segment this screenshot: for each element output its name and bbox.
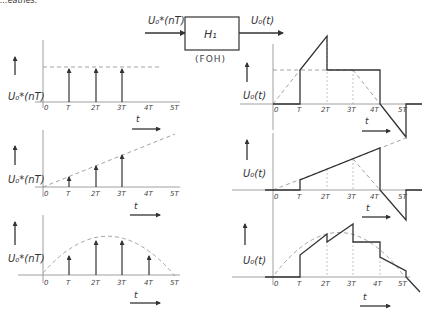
svg-text:U₀*(nT): U₀*(nT): [8, 253, 45, 264]
svg-text:3T: 3T: [347, 193, 356, 201]
svg-text:3T: 3T: [117, 104, 126, 112]
foh-output-curve: [265, 224, 420, 292]
svg-text:0: 0: [44, 104, 49, 112]
svg-text:T: T: [297, 193, 302, 201]
svg-text:0: 0: [274, 106, 279, 114]
svg-text:t: t: [366, 203, 370, 213]
svg-text:T: T: [66, 190, 71, 198]
right-plot-sine: U₀(t) 0 T 2T 3T 4T 5T t: [232, 215, 420, 306]
foh-diagram: ...eathes. U₀*(nT) U₀(t) H₁ (FOH) U₀*(nT…: [0, 0, 431, 314]
svg-text:T: T: [297, 106, 302, 114]
svg-text:2T: 2T: [91, 190, 100, 198]
svg-text:U₀*(nT): U₀*(nT): [8, 174, 45, 185]
svg-text:2T: 2T: [91, 104, 100, 112]
svg-text:2T: 2T: [91, 279, 100, 287]
svg-text:3T: 3T: [117, 190, 126, 198]
svg-text:5T: 5T: [170, 190, 179, 198]
svg-text:3T: 3T: [347, 280, 356, 288]
svg-text:4T: 4T: [144, 279, 153, 287]
right-plot-constant: U₀(t) 0 T 2T 3T 4T 5T t: [240, 36, 422, 137]
svg-text:2T: 2T: [321, 106, 330, 114]
left-plot-sine: U₀*(nT) 0 T 2T 3T 4T 5T t: [8, 215, 180, 303]
svg-text:5T: 5T: [398, 193, 407, 201]
svg-text:0: 0: [274, 193, 279, 201]
left-plot-ramp: U₀*(nT) 0 T 2T 3T 4T 5T t: [8, 130, 180, 215]
svg-text:3T: 3T: [117, 279, 126, 287]
svg-text:t: t: [134, 290, 138, 300]
block-caption: (FOH): [195, 54, 226, 64]
svg-text:3T: 3T: [347, 106, 356, 114]
svg-text:T: T: [66, 279, 71, 287]
input-label: U₀*(nT): [148, 15, 185, 26]
svg-text:T: T: [297, 280, 302, 288]
svg-text:0: 0: [44, 190, 49, 198]
svg-text:U₀(t): U₀(t): [243, 168, 266, 179]
left-plot-constant: U₀*(nT) 0 T 2T 3T 4T 5T t: [8, 40, 180, 129]
svg-text:2T: 2T: [321, 193, 330, 201]
svg-text:0: 0: [44, 279, 49, 287]
block-label: H₁: [204, 28, 217, 41]
svg-text:t: t: [365, 116, 369, 126]
svg-text:U₀(t): U₀(t): [243, 255, 266, 266]
right-plot-ramp: U₀(t) 0 T 2T 3T 4T 5T t: [232, 133, 422, 220]
svg-text:2T: 2T: [321, 280, 330, 288]
svg-text:4T: 4T: [144, 190, 153, 198]
block-diagram: U₀*(nT) U₀(t) H₁ (FOH): [145, 15, 283, 64]
svg-text:T: T: [66, 104, 71, 112]
svg-text:t: t: [134, 201, 138, 211]
header-fragment: ...eathes.: [0, 0, 37, 5]
svg-text:5T: 5T: [170, 104, 179, 112]
svg-text:t: t: [363, 292, 367, 302]
svg-text:5T: 5T: [170, 279, 179, 287]
svg-text:4T: 4T: [144, 104, 153, 112]
svg-text:5T: 5T: [398, 280, 407, 288]
svg-text:U₀(t): U₀(t): [243, 90, 266, 101]
svg-text:4T: 4T: [370, 106, 379, 114]
svg-text:4T: 4T: [370, 193, 379, 201]
output-label: U₀(t): [251, 15, 274, 26]
svg-text:5T: 5T: [398, 106, 407, 114]
svg-text:t: t: [136, 114, 140, 124]
svg-text:0: 0: [274, 280, 279, 288]
svg-text:4T: 4T: [373, 280, 382, 288]
foh-output-curve: [273, 36, 422, 137]
y-label: U₀*(nT): [8, 91, 45, 102]
